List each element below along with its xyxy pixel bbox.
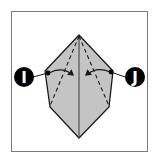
origami-diagram: I J [0, 0, 158, 165]
marker-j-label: J [131, 69, 138, 87]
marker-i: I [14, 67, 34, 87]
marker-i-label: I [21, 69, 27, 87]
marker-j: J [125, 67, 145, 87]
